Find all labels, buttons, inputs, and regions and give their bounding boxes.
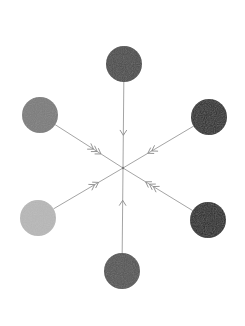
- circle-node-lower-right: [190, 202, 226, 238]
- diagram-canvas: [0, 0, 245, 326]
- spoke-line-lower-right: [123, 168, 193, 211]
- circle-node-upper-right: [191, 99, 227, 135]
- circle-node-lower-left: [20, 200, 56, 236]
- center-hub: [122, 167, 124, 169]
- spoke-line-upper-left: [55, 125, 123, 168]
- circle-node-bottom: [104, 253, 140, 289]
- hub-spoke-diagram: [0, 0, 245, 326]
- circle-node-top: [106, 46, 142, 82]
- spoke-line-upper-right: [123, 126, 194, 168]
- spoke-line-lower-left: [54, 168, 123, 209]
- spoke-line-top: [123, 82, 124, 168]
- circle-node-upper-left: [22, 97, 58, 133]
- spoke-line-bottom: [122, 168, 123, 253]
